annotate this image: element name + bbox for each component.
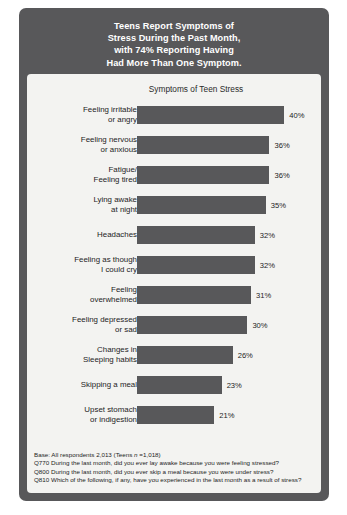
- chart-subtitle: Symptoms of Teen Stress: [27, 84, 321, 94]
- bar-track: 21%: [137, 406, 321, 424]
- bar-value-label: 32%: [255, 231, 275, 240]
- footnotes-block: Base: All respondents 2,013 (Teens n =1,…: [34, 451, 314, 485]
- bar-category-label: Feelingoverwhelmed: [41, 285, 137, 304]
- bar-fill: [137, 106, 284, 124]
- bar-row: Lying awakeat night35%: [27, 190, 321, 220]
- bar-track: 30%: [137, 316, 321, 334]
- bar-category-label: Lying awakeat night: [41, 195, 137, 214]
- bar-row: Feeling irritableor angry40%: [27, 100, 321, 130]
- bar-fill: [137, 256, 255, 274]
- bar-category-label: Changes inSleeping habits: [41, 345, 137, 364]
- bar-track: 40%: [137, 106, 321, 124]
- bar-track: 32%: [137, 256, 321, 274]
- bar-category-label-line: at night: [41, 205, 137, 215]
- bar-category-label-line: overwhelmed: [41, 295, 137, 305]
- bar-category-label-line: Feeling nervous: [41, 135, 137, 145]
- bar-category-label-line: Lying awake: [41, 195, 137, 205]
- bar-track: 32%: [137, 226, 321, 244]
- bar-fill: [137, 346, 233, 364]
- bar-row: Feeling depressedor sad30%: [27, 310, 321, 340]
- bar-fill: [137, 136, 269, 154]
- bar-value-label: 35%: [266, 201, 286, 210]
- bar-category-label-line: Feeling depressed: [41, 315, 137, 325]
- bar-row: Fatigue/Feeling tired36%: [27, 160, 321, 190]
- bar-category-label-line: Fatigue/: [41, 165, 137, 175]
- bar-category-label: Fatigue/Feeling tired: [41, 165, 137, 184]
- bar-value-label: 36%: [269, 141, 289, 150]
- bar-category-label-line: or indigestion: [41, 415, 137, 425]
- bar-fill: [137, 226, 255, 244]
- bar-row: Feeling nervousor anxious36%: [27, 130, 321, 160]
- bar-row: Upset stomachor indigestion21%: [27, 400, 321, 430]
- bar-row: Headaches32%: [27, 220, 321, 250]
- bar-value-label: 23%: [222, 381, 242, 390]
- bar-track: 35%: [137, 196, 321, 214]
- bar-track: 26%: [137, 346, 321, 364]
- bar-row: Feeling as thoughI could cry32%: [27, 250, 321, 280]
- title-line-2: Stress During the Past Month,: [37, 32, 311, 44]
- footnote-base-prefix: Base: All respondents 2,013 (Teens: [34, 451, 134, 458]
- footnote-q810: Q810 Which of the following, if any, hav…: [34, 476, 314, 485]
- bar-fill: [137, 376, 222, 394]
- title-line-3: with 74% Reporting Having: [37, 44, 311, 56]
- bar-row: Feelingoverwhelmed31%: [27, 280, 321, 310]
- bar-category-label-line: or anxious: [41, 145, 137, 155]
- bar-category-label: Feeling irritableor angry: [41, 105, 137, 124]
- bar-category-label-line: or angry: [41, 115, 137, 125]
- bar-category-label-line: Feeling: [41, 285, 137, 295]
- bar-track: 36%: [137, 166, 321, 184]
- bar-category-label-line: Feeling tired: [41, 175, 137, 185]
- bar-fill: [137, 406, 214, 424]
- bar-category-label: Feeling nervousor anxious: [41, 135, 137, 154]
- footnote-base: Base: All respondents 2,013 (Teens n =1,…: [34, 451, 314, 460]
- bar-category-label: Upset stomachor indigestion: [41, 405, 137, 424]
- footnote-base-suffix: =1,018): [138, 451, 161, 458]
- bar-fill: [137, 196, 266, 214]
- bar-category-label-line: I could cry: [41, 265, 137, 275]
- bar-value-label: 31%: [251, 291, 271, 300]
- title-line-4: Had More Than One Symptom.: [37, 57, 311, 69]
- bar-category-label-line: or sad: [41, 325, 137, 335]
- chart-panel: Symptoms of Teen Stress Feeling irritabl…: [27, 74, 321, 493]
- bar-fill: [137, 286, 251, 304]
- bar-row: Skipping a meal23%: [27, 370, 321, 400]
- bar-category-label: Skipping a meal: [41, 380, 137, 390]
- bar-category-label-line: Upset stomach: [41, 405, 137, 415]
- bar-category-label-line: Feeling irritable: [41, 105, 137, 115]
- title-line-1: Teens Report Symptoms of: [37, 20, 311, 32]
- bar-track: 31%: [137, 286, 321, 304]
- bar-category-label: Headaches: [41, 230, 137, 240]
- bar-fill: [137, 316, 247, 334]
- bar-category-label-line: Sleeping habits: [41, 355, 137, 365]
- header-banner: Teens Report Symptoms of Stress During t…: [19, 8, 329, 79]
- footnote-q800: Q800 During the last month, did you ever…: [34, 468, 314, 477]
- bar-value-label: 26%: [233, 351, 253, 360]
- bar-category-label-line: Headaches: [41, 230, 137, 240]
- bar-fill: [137, 166, 269, 184]
- bar-track: 23%: [137, 376, 321, 394]
- bar-category-label-line: Skipping a meal: [41, 380, 137, 390]
- bar-value-label: 40%: [284, 111, 304, 120]
- bar-category-label-line: Changes in: [41, 345, 137, 355]
- bar-category-label: Feeling depressedor sad: [41, 315, 137, 334]
- bar-chart-plot: Feeling irritableor angry40%Feeling nerv…: [27, 100, 321, 430]
- bar-value-label: 30%: [247, 321, 267, 330]
- bar-category-label-line: Feeling as though: [41, 255, 137, 265]
- bar-row: Changes inSleeping habits26%: [27, 340, 321, 370]
- bar-value-label: 21%: [214, 411, 234, 420]
- bar-category-label: Feeling as thoughI could cry: [41, 255, 137, 274]
- infographic-figure: Teens Report Symptoms of Stress During t…: [19, 8, 329, 501]
- bar-track: 36%: [137, 136, 321, 154]
- footnote-q770: Q770 During the last month, did you ever…: [34, 459, 314, 468]
- bar-value-label: 32%: [255, 261, 275, 270]
- bar-value-label: 36%: [269, 171, 289, 180]
